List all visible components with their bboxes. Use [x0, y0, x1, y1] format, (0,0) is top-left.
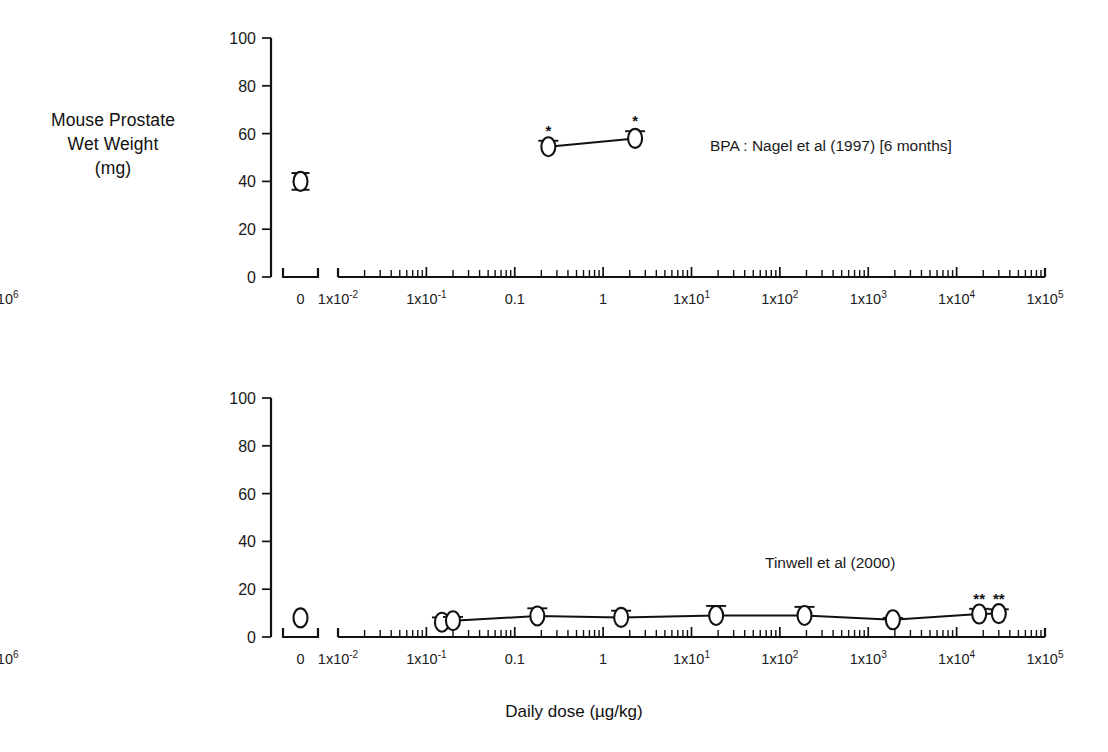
y-tick-label: 0 — [247, 269, 256, 286]
data-point — [541, 137, 555, 156]
x-tick-label: 1x101 — [673, 289, 710, 307]
data-point — [798, 606, 812, 625]
y-tick-label: 60 — [238, 486, 256, 503]
x-tick-label: 1x103 — [850, 289, 887, 307]
x-tick-label: 1x104 — [938, 289, 975, 307]
x-tick-label: 1 — [599, 291, 607, 307]
series-bottom: **** — [294, 590, 1009, 632]
y-tick-label: 100 — [229, 30, 256, 47]
y-tick-label: 20 — [238, 221, 256, 238]
y-tick-label: 100 — [229, 390, 256, 407]
x-tick-label: 1x102 — [761, 289, 798, 307]
x-tick-label: 1x10-2 — [318, 649, 359, 667]
x-axis-top: 01x10-21x10-10.111x1011x1021x1031x1041x1… — [0, 267, 1064, 307]
data-point — [628, 129, 642, 148]
data-point — [709, 606, 723, 625]
data-point — [530, 606, 544, 625]
x-tick-label: 1x104 — [938, 649, 975, 667]
data-point — [972, 605, 986, 624]
data-point — [886, 610, 900, 629]
y-tick-label: 80 — [238, 438, 256, 455]
data-point — [446, 611, 460, 630]
y-tick-label: 80 — [238, 78, 256, 95]
x-tick-label: 1x101 — [673, 649, 710, 667]
x-tick-label: 0.1 — [505, 651, 525, 667]
series-top: ** — [292, 112, 646, 191]
x-tick-label: 1x105 — [1026, 649, 1063, 667]
x-tick-label: 1x105 — [1026, 289, 1063, 307]
series-connecting-line — [548, 138, 635, 146]
y-tick-label: 0 — [247, 629, 256, 646]
x-tick-label: 0 — [296, 291, 304, 307]
cropped-caption-remnant — [0, 735, 1108, 752]
x-axis-control-bracket — [283, 268, 318, 277]
y-tick-label: 40 — [238, 173, 256, 190]
x-tick-label: 0.1 — [505, 291, 525, 307]
y-axis-bottom: 020406080100 — [229, 390, 271, 646]
significance-marker: ** — [973, 590, 985, 607]
x-axis-bottom: 01x10-21x10-10.111x1011x1021x1031x1041x1… — [0, 627, 1064, 667]
series-label-top: BPA : Nagel et al (1997) [6 months] — [710, 137, 952, 154]
x-tick-label: 1x10-1 — [406, 289, 447, 307]
x-tick-label: 1x102 — [761, 649, 798, 667]
x-tick-label: 1x10-2 — [318, 289, 359, 307]
series-label-bottom: Tinwell et al (2000) — [765, 554, 895, 571]
figure-root: Mouse Prostate Wet Weight (mg) Mouse Ute… — [0, 0, 1108, 752]
x-axis-title: Daily dose (µg/kg) — [0, 702, 1108, 722]
significance-marker: * — [545, 122, 551, 139]
x-tick-label: 1x106 — [0, 289, 19, 307]
x-tick-label: 1 — [599, 651, 607, 667]
y-tick-label: 40 — [238, 533, 256, 550]
data-point — [614, 608, 628, 627]
plot-canvas: 02040608010002040608010001x10-21x10-10.1… — [0, 0, 1108, 752]
x-tick-label: 1x103 — [850, 649, 887, 667]
x-tick-label: 1x106 — [0, 649, 19, 667]
y-axis-top: 020406080100 — [229, 30, 271, 286]
significance-marker: * — [632, 112, 638, 129]
control-data-point — [294, 172, 308, 191]
x-axis-control-bracket — [283, 628, 318, 637]
x-axis-title-text: Daily dose (µg/kg) — [505, 702, 642, 722]
significance-marker: ** — [993, 590, 1005, 607]
y-tick-label: 20 — [238, 581, 256, 598]
y-tick-label: 60 — [238, 126, 256, 143]
control-data-point — [294, 608, 308, 627]
x-tick-label: 1x10-1 — [406, 649, 447, 667]
x-tick-label: 0 — [296, 651, 304, 667]
